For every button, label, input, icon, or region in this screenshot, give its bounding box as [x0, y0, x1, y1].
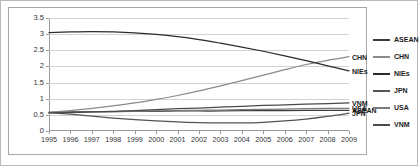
y-tick-label: 2.5	[34, 47, 44, 55]
x-tick-mark	[199, 131, 200, 134]
x-tick-label: 1998	[105, 136, 121, 143]
legend-item-usa[interactable]: USA	[373, 99, 417, 116]
end-label-jpn: JPN	[352, 110, 366, 117]
legend-item-asean[interactable]: ASEAN	[373, 31, 417, 48]
x-tick-mark	[113, 131, 114, 134]
legend-label: VNM	[394, 121, 410, 128]
legend-swatch-icon	[373, 39, 390, 41]
x-tick-label: 2007	[298, 136, 314, 143]
y-tick-label: 0	[40, 127, 44, 135]
legend-label: JPN	[394, 87, 408, 94]
legend-label: CHN	[394, 53, 409, 60]
x-tick-mark	[178, 131, 179, 134]
x-tick-mark	[135, 131, 136, 134]
x-tick-label: 2005	[255, 136, 271, 143]
y-tick-label: 3.5	[34, 14, 44, 22]
chart-legend: ASEANCHNNIEsJPNUSAVNM	[373, 31, 417, 133]
series-lines	[49, 18, 349, 131]
legend-swatch-icon	[373, 56, 390, 58]
legend-label: ASEAN	[394, 36, 419, 43]
series-line-jpn	[49, 113, 349, 123]
x-tick-label: 1997	[84, 136, 100, 143]
y-tick-label: 1	[40, 95, 44, 103]
plot-area: 00.511.522.533.5 19951996199719981999200…	[49, 18, 349, 131]
x-tick-mark	[263, 131, 264, 134]
y-tick-label: 2	[40, 63, 44, 71]
x-tick-label: 2003	[212, 136, 228, 143]
x-tick-label: 1995	[41, 136, 57, 143]
legend-item-vnm[interactable]: VNM	[373, 116, 417, 133]
x-tick-mark	[328, 131, 329, 134]
y-tick-label: 3	[40, 30, 44, 38]
x-tick-mark	[49, 131, 50, 134]
x-tick-mark	[92, 131, 93, 134]
x-tick-label: 2001	[170, 136, 186, 143]
x-tick-mark	[220, 131, 221, 134]
legend-item-chn[interactable]: CHN	[373, 48, 417, 65]
x-tick-label: 2004	[234, 136, 250, 143]
x-tick-mark	[242, 131, 243, 134]
y-tick-label: 0.5	[34, 111, 44, 119]
legend-swatch-icon	[373, 73, 390, 75]
legend-label: NIEs	[394, 70, 410, 77]
x-tick-mark	[285, 131, 286, 134]
end-label-chn: CHN	[352, 53, 367, 60]
x-tick-label: 2009	[341, 136, 357, 143]
x-tick-mark	[70, 131, 71, 134]
legend-swatch-icon	[373, 124, 390, 126]
x-tick-label: 1999	[127, 136, 143, 143]
legend-swatch-icon	[373, 107, 390, 109]
x-tick-label: 2008	[320, 136, 336, 143]
chart-plot-container: 00.511.522.533.5 19951996199719981999200…	[8, 7, 367, 155]
x-tick-mark	[156, 131, 157, 134]
x-tick-label: 1996	[62, 136, 78, 143]
legend-swatch-icon	[373, 90, 390, 92]
legend-item-nies[interactable]: NIEs	[373, 65, 417, 82]
end-label-nies: NIEs	[352, 67, 368, 74]
x-tick-mark	[306, 131, 307, 134]
x-tick-label: 2000	[148, 136, 164, 143]
legend-item-jpn[interactable]: JPN	[373, 82, 417, 99]
x-tick-label: 2006	[277, 136, 293, 143]
y-tick-label: 1.5	[34, 79, 44, 87]
x-tick-label: 2002	[191, 136, 207, 143]
legend-label: USA	[394, 104, 409, 111]
x-tick-mark	[349, 131, 350, 134]
